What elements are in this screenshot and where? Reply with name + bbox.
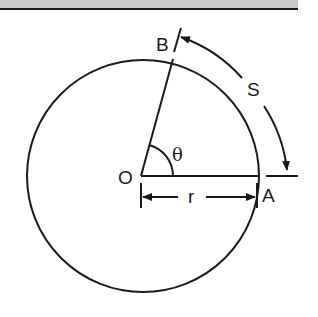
arc-length-upper-arrow: [181, 37, 242, 78]
label-point-b: B: [156, 34, 169, 55]
arc-length-lower-arrow: [264, 106, 287, 170]
circle-diagram: O A B r S θ: [0, 0, 318, 317]
theta-angle-arc: [149, 145, 173, 176]
label-arc-length-s: S: [247, 79, 260, 100]
label-point-a: A: [262, 185, 275, 206]
label-center-o: O: [118, 167, 133, 188]
point-b-tick-line: [174, 28, 181, 52]
label-radius-r: r: [188, 186, 195, 207]
label-angle-theta: θ: [172, 144, 183, 165]
